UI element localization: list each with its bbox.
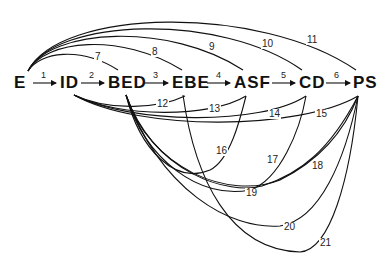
edge-label-12: 12 [156,99,169,109]
node-e: E [14,74,26,91]
node-cd: CD [299,74,326,91]
edges-layer [0,0,390,264]
node-asf: ASF [234,74,271,91]
edge-label-10: 10 [261,39,274,49]
node-id: ID [60,74,79,91]
edge-label-13: 13 [208,104,221,114]
edge-label-14: 14 [268,109,281,119]
edge-label-19: 19 [245,188,258,198]
edge-label-2: 2 [89,71,94,80]
edge-label-16: 16 [215,146,228,156]
edge-label-11: 11 [306,35,318,45]
transition-diagram: E ID BED EBE ASF CD PS 1 2 3 4 5 6 7 8 9… [0,0,390,264]
edge-label-21: 21 [319,238,332,248]
edge-label-5: 5 [281,71,286,80]
edge-label-20: 20 [283,222,296,232]
edge-label-6: 6 [334,71,339,80]
edge-label-4: 4 [216,71,221,80]
node-ebe: EBE [172,74,210,91]
node-ps: PS [353,74,378,91]
edge-label-8: 8 [151,47,159,57]
edge-label-15: 15 [315,109,328,119]
edge-label-9: 9 [208,42,216,52]
edge-label-1: 1 [41,71,46,80]
node-bed: BED [108,74,147,91]
edge-label-7: 7 [94,52,102,62]
edge-label-18: 18 [311,161,324,171]
edge-label-17: 17 [266,155,279,165]
edge-10 [28,29,302,71]
edge-label-3: 3 [153,71,158,80]
